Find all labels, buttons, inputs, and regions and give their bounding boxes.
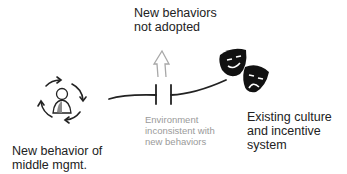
theater-masks-icon bbox=[219, 49, 269, 93]
person-shade bbox=[57, 101, 62, 113]
connector-line bbox=[109, 80, 226, 104]
person-cycle-icon bbox=[38, 77, 86, 123]
connector-label: Environment inconsistent with new behavi… bbox=[145, 114, 215, 147]
culture-label: Existing culture and incentive system bbox=[247, 110, 332, 152]
outcome-label: New behaviors not adopted bbox=[134, 6, 217, 34]
middle-mgmt-label: New behavior of middle mgmt. bbox=[12, 144, 102, 172]
up-arrow-outline-icon bbox=[154, 51, 169, 77]
